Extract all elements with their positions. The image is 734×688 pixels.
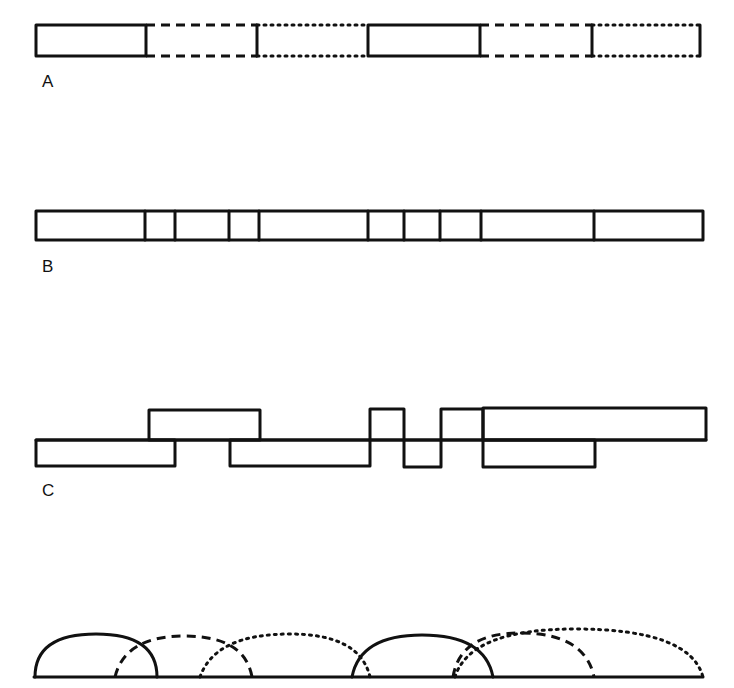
panel-label-c: C bbox=[42, 481, 54, 500]
panel-label-a: A bbox=[42, 72, 54, 91]
arc-dotted-1 bbox=[200, 634, 370, 677]
lower-block-3 bbox=[404, 440, 441, 467]
bar-dividers bbox=[145, 211, 594, 240]
upper-block-4 bbox=[483, 408, 706, 440]
segment-dashed-2 bbox=[480, 25, 592, 56]
segment-dotted-2 bbox=[592, 25, 700, 56]
panel-label-b: B bbox=[42, 257, 53, 276]
segment-dotted-1 bbox=[257, 25, 368, 56]
lower-block-4 bbox=[483, 440, 595, 467]
segment-solid-1 bbox=[36, 25, 146, 56]
panel-d bbox=[34, 629, 703, 677]
upper-block-3 bbox=[441, 409, 483, 440]
arc-solid-1 bbox=[35, 634, 157, 677]
lower-block-1 bbox=[36, 440, 175, 466]
panel-b: B bbox=[36, 211, 703, 276]
segment-solid-2 bbox=[368, 25, 480, 56]
lower-block-2 bbox=[230, 440, 370, 466]
panel-c: C bbox=[36, 408, 706, 500]
segment-dashed-1 bbox=[146, 25, 257, 56]
upper-block-2 bbox=[370, 409, 404, 440]
arc-dashed-2 bbox=[453, 633, 594, 677]
arc-solid-2 bbox=[352, 635, 493, 677]
upper-block-1 bbox=[149, 410, 260, 440]
panel-a: A bbox=[36, 25, 700, 91]
diagram-canvas: A B C bbox=[0, 0, 734, 688]
